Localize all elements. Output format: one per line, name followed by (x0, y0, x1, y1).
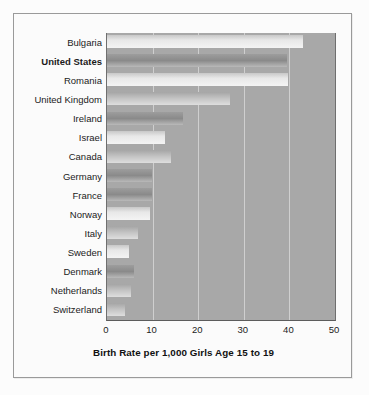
x-tick-20: 20 (192, 324, 203, 335)
category-label-bulgaria: Bulgaria (0, 38, 102, 48)
category-label-netherlands: Netherlands (0, 286, 102, 296)
bar-row (107, 167, 335, 186)
category-label-canada: Canada (0, 152, 102, 162)
figure-frame: BulgariaUnited StatesRomaniaUnited Kingd… (13, 13, 352, 378)
bar-row (107, 33, 335, 52)
bar (107, 207, 150, 220)
bar-row (107, 129, 335, 148)
category-label-sweden: Sweden (0, 248, 102, 258)
bar (107, 265, 134, 278)
x-tick-40: 40 (283, 324, 294, 335)
bar-row (107, 148, 335, 167)
bar-row (107, 52, 335, 71)
x-tick-0: 0 (103, 324, 108, 335)
category-label-israel: Israel (0, 133, 102, 143)
bar (107, 169, 152, 182)
chart-page: BulgariaUnited StatesRomaniaUnited Kingd… (0, 0, 369, 395)
x-tick-50: 50 (329, 324, 340, 335)
bar-row (107, 224, 335, 243)
bar-row (107, 263, 335, 282)
plot-area (106, 33, 336, 321)
horizontal-bar-chart: BulgariaUnited StatesRomaniaUnited Kingd… (14, 14, 353, 379)
x-tick-30: 30 (238, 324, 249, 335)
bar-row (107, 205, 335, 224)
category-label-ireland: Ireland (0, 114, 102, 124)
category-label-switzerland: Switzerland (0, 305, 102, 315)
category-label-romania: Romania (0, 76, 102, 86)
bar (107, 150, 171, 163)
bar (107, 245, 129, 258)
bar (107, 226, 138, 239)
category-label-united-states: United States (0, 57, 102, 67)
category-label-france: France (0, 191, 102, 201)
x-axis-title: Birth Rate per 1,000 Girls Age 15 to 19 (14, 347, 353, 358)
x-tick-10: 10 (146, 324, 157, 335)
bar (107, 35, 303, 48)
bar (107, 303, 125, 316)
bar-row (107, 243, 335, 262)
bar (107, 131, 165, 144)
bar-row (107, 186, 335, 205)
category-label-denmark: Denmark (0, 267, 102, 277)
category-label-germany: Germany (0, 172, 102, 182)
bar (107, 112, 183, 125)
category-label-norway: Norway (0, 210, 102, 220)
bar-row (107, 282, 335, 301)
bar-row (107, 301, 335, 320)
bar-row (107, 110, 335, 129)
bar-series (107, 33, 335, 320)
bar (107, 284, 131, 297)
bar (107, 54, 287, 67)
bar (107, 73, 288, 86)
bar (107, 188, 152, 201)
bar-row (107, 71, 335, 90)
category-label-italy: Italy (0, 229, 102, 239)
bar (107, 92, 230, 105)
bar-row (107, 90, 335, 109)
category-label-united-kingdom: United Kingdom (0, 95, 102, 105)
